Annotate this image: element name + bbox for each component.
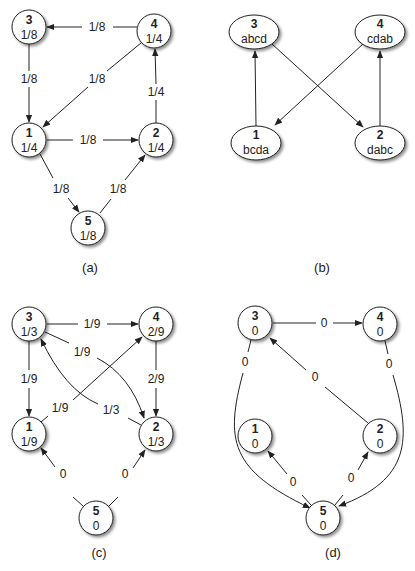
node-2: 2 1/3 [139, 417, 173, 451]
edge-1-5-head [68, 198, 79, 212]
panel-a: 1/8 1/8 1/8 1/4 1/8 1/8 1/8 3 1/8 4 1/4 … [12, 10, 173, 275]
node-id: 4 [377, 17, 384, 31]
edge-label: 0 [60, 467, 67, 481]
node-value: 1/4 [21, 141, 38, 155]
node-id: 2 [153, 420, 160, 434]
node-id: 5 [320, 504, 327, 518]
edge-label: 1/9 [21, 372, 38, 386]
edge-5-2 [109, 497, 118, 506]
node-id: 5 [85, 214, 92, 228]
node-2: 2 dabc [355, 126, 405, 160]
panel-c: 1/9 1/9 1/9 2/9 1/9 1/3 0 0 3 1/3 4 2/9 … [12, 307, 173, 560]
node-value: 0 [320, 519, 327, 533]
node-id: 2 [377, 128, 384, 142]
edge-label: 1/9 [74, 345, 91, 359]
node-id: 2 [153, 126, 160, 140]
node-id: 1 [26, 420, 33, 434]
node-2: 2 0 [363, 419, 397, 453]
edge-1-3 [255, 51, 256, 126]
edge-2-4-head [155, 49, 156, 84]
panel-caption: (b) [314, 260, 330, 275]
edge-5-2-head [133, 450, 145, 468]
node-value: cdab [367, 32, 393, 46]
node-5: 5 0 [79, 501, 113, 535]
node-1: 1 0 [238, 419, 272, 453]
node-3: 3 0 [238, 306, 272, 340]
edge-label: 0 [242, 355, 249, 369]
edge-5-2-head [358, 452, 368, 470]
node-4: 4 0 [363, 307, 397, 341]
node-id: 4 [153, 310, 160, 324]
node-value: dabc [367, 143, 393, 157]
node-value: 0 [93, 519, 100, 533]
edge-2-3 [325, 387, 368, 423]
edge-1-5 [40, 154, 53, 178]
node-4: 4 cdab [355, 15, 405, 49]
node-id: 3 [252, 309, 259, 323]
panel-caption: (d) [325, 545, 341, 560]
edge-label: 0 [290, 475, 297, 489]
edge-label: 1/3 [103, 403, 120, 417]
node-value: 0 [252, 324, 259, 338]
panel-d: 0 0 0 0 0 0 3 0 4 0 1 0 2 0 5 0 (d) [234, 306, 403, 560]
node-value: 1/8 [80, 229, 97, 243]
edge-label: 1/8 [53, 182, 70, 196]
node-id: 4 [151, 17, 158, 31]
node-value: 1/4 [148, 141, 165, 155]
node-3: 3 1/8 [12, 10, 46, 44]
edge-label: 1/9 [84, 317, 101, 331]
edge-label: 1/4 [148, 85, 165, 99]
node-value: 1/4 [146, 32, 163, 46]
edge-5-2 [335, 495, 343, 505]
edge-5-1-head [41, 448, 55, 467]
edge-label: 0 [386, 357, 393, 371]
edge-label: 1/8 [89, 72, 106, 86]
node-id: 5 [93, 504, 100, 518]
node-value: 1/3 [21, 325, 38, 339]
edge-2-3 [128, 418, 141, 425]
node-value: 1/9 [21, 435, 38, 449]
panel-b: 3 abcd 4 cdab 1 bcda 2 dabc (b) [229, 15, 405, 275]
edge-4-5 [385, 341, 388, 354]
node-id: 3 [26, 310, 33, 324]
node-value: 1/8 [21, 28, 38, 42]
edge-label: 0 [122, 467, 129, 481]
edge-5-1 [73, 497, 83, 506]
node-value: abcd [241, 32, 267, 46]
node-id: 4 [377, 310, 384, 324]
node-id: 1 [252, 422, 259, 436]
node-3: 3 abcd [229, 15, 279, 49]
node-5: 5 1/8 [71, 211, 105, 245]
edge-2-3-head [270, 338, 306, 370]
node-id: 3 [251, 17, 258, 31]
edge-3-5 [248, 340, 251, 352]
node-4: 4 2/9 [139, 307, 173, 341]
node-2: 2 1/4 [139, 123, 173, 157]
edge-label: 1/8 [89, 20, 106, 34]
edge-4-1 [107, 43, 141, 71]
edge-4-1-head [43, 87, 88, 127]
node-1: 1 1/9 [12, 417, 46, 451]
node-value: 2/9 [148, 325, 165, 339]
edge-label: 2/9 [148, 372, 165, 386]
node-id: 1 [253, 128, 260, 142]
node-1: 1 bcda [231, 126, 281, 160]
node-value: bcda [243, 143, 269, 157]
edge-5-1 [302, 495, 311, 505]
node-value: 0 [377, 437, 384, 451]
node-1: 1 1/4 [12, 123, 46, 157]
edge-5-2-head [125, 155, 145, 180]
edge-label: 1/8 [80, 133, 97, 147]
edge-1-4 [41, 416, 48, 422]
edge-label: 1/8 [110, 182, 127, 196]
edge-label: 0 [312, 370, 319, 384]
node-3: 3 1/3 [12, 307, 46, 341]
node-id: 1 [26, 126, 33, 140]
diagram-canvas: 1/8 1/8 1/8 1/4 1/8 1/8 1/8 3 1/8 4 1/4 … [0, 0, 415, 571]
node-id: 3 [26, 13, 33, 27]
edge-label: 0 [348, 471, 355, 485]
node-value: 1/3 [148, 435, 165, 449]
node-value: 0 [252, 437, 259, 451]
edge-3-2 [45, 332, 69, 343]
edge-4-1 [275, 44, 363, 125]
